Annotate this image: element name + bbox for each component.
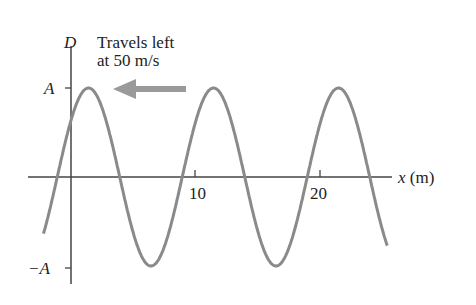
annotation-line1: Travels left	[97, 33, 174, 52]
arrow-left-icon	[113, 79, 186, 99]
y-axis-label: D	[64, 33, 76, 52]
x-axis-label: x (m)	[398, 168, 434, 187]
tick-label-a: A	[44, 79, 54, 98]
annotation-line2: at 50 m/s	[97, 51, 159, 70]
tick-label-20: 20	[310, 184, 327, 203]
tick-label-neg-a: −A	[28, 259, 50, 278]
tick-label-10: 10	[189, 184, 206, 203]
